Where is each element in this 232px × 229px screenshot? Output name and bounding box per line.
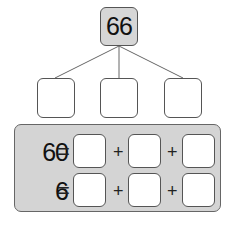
root-number-box: 66	[100, 7, 138, 46]
equation-row-2: 6 = + +	[15, 173, 220, 209]
plus-sign: +	[167, 134, 178, 170]
plus-sign: +	[167, 173, 178, 209]
answer-box[interactable]	[128, 173, 161, 207]
equals-sign: =	[57, 173, 70, 209]
equation-row-1: 60 = + +	[15, 134, 220, 170]
answer-box[interactable]	[128, 134, 161, 168]
answer-box[interactable]	[73, 173, 106, 207]
answer-box[interactable]	[182, 134, 215, 168]
plus-sign: +	[113, 134, 124, 170]
child-box-2[interactable]	[100, 78, 138, 118]
answer-box[interactable]	[73, 134, 106, 168]
answer-box[interactable]	[182, 173, 215, 207]
child-box-1[interactable]	[37, 78, 75, 118]
equation-panel: 60 = + + 6 = + +	[14, 124, 221, 212]
equals-sign: =	[57, 134, 70, 170]
plus-sign: +	[113, 173, 124, 209]
child-box-3[interactable]	[164, 78, 202, 118]
